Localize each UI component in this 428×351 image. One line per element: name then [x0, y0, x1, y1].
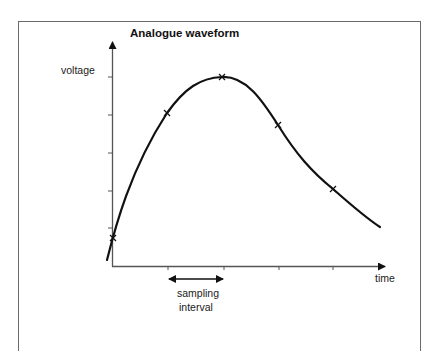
- y-axis: [108, 42, 113, 267]
- sample-marker-icon: [164, 110, 170, 116]
- sample-marker-icon: [275, 122, 281, 128]
- sample-marker-icon: [330, 186, 336, 192]
- sampling-interval-label-line1: sampling: [177, 287, 219, 299]
- x-axis: [112, 267, 385, 271]
- diagram-title: Analogue waveform: [130, 27, 239, 39]
- waveform-curve: [107, 77, 380, 260]
- y-axis-label: voltage: [61, 64, 95, 76]
- sampling-interval-label-line2: interval: [179, 301, 213, 313]
- x-axis-label: time: [375, 272, 395, 284]
